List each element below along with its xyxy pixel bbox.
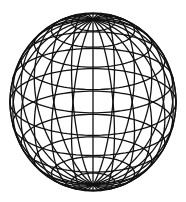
- wireframe-sphere-figure: [0, 0, 186, 202]
- meridian-lines: [10, 13, 176, 191]
- sphere-svg: [0, 0, 186, 202]
